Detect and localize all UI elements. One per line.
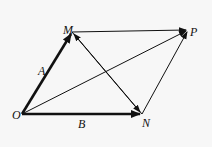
vector-MN-head xyxy=(72,32,140,112)
point-label-O: O xyxy=(12,109,21,121)
diagram-canvas xyxy=(0,0,212,147)
vector-label-B: B xyxy=(78,118,85,130)
vector-diagram: M P O N N A B xyxy=(0,0,212,147)
point-label-N-visible: N xyxy=(142,117,150,129)
vector-label-A: A xyxy=(38,65,45,77)
point-label-P: P xyxy=(190,26,197,38)
vector-MP xyxy=(72,30,186,32)
vector-NP xyxy=(142,32,187,114)
point-label-M: M xyxy=(63,24,73,36)
